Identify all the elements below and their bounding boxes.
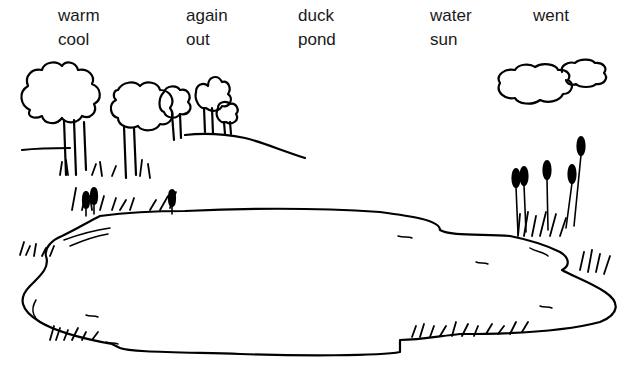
ground-line — [22, 148, 70, 150]
tree-icon — [21, 63, 237, 178]
cattail-stems — [86, 155, 581, 234]
hill — [185, 134, 305, 158]
grass-icon — [20, 160, 610, 340]
cloud-icon — [499, 60, 606, 104]
pond-ripples — [33, 228, 552, 344]
pond-scene-illustration — [0, 0, 642, 366]
cattail-icon — [83, 137, 585, 208]
